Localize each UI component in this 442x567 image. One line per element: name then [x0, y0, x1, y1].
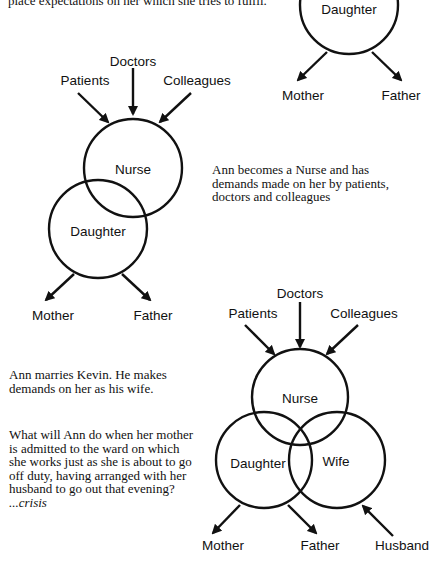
- diagram2-doctors-label: Doctors: [110, 54, 157, 69]
- arrow-to-father-1: [372, 52, 401, 80]
- diagram2-mother-label: Mother: [32, 308, 74, 323]
- caption-line: Ann marries Kevin. He makes: [9, 368, 167, 382]
- diagram2-nurse-label: Nurse: [115, 162, 151, 177]
- diagram3-daughter-label: Daughter: [230, 456, 286, 471]
- caption-line: doctors and colleagues: [212, 190, 389, 204]
- diagram3-question-caption: What will Ann do when her mother is admi…: [9, 428, 193, 509]
- crisis-text: ...crisis: [9, 496, 193, 510]
- arrow-from-patients-3: [245, 325, 274, 354]
- caption-line: What will Ann do when her mother: [9, 428, 193, 442]
- caption-line: is admitted to the ward on which: [9, 442, 193, 456]
- arrow-from-patients-2: [78, 93, 108, 122]
- diagram3-doctors-label: Doctors: [277, 286, 324, 301]
- arrow-from-colleagues-2: [160, 93, 191, 122]
- caption-line: off duty, having arranged with her: [9, 469, 193, 483]
- intro-line: place expectations on her which she trie…: [8, 0, 267, 8]
- diagram3-mother-label: Mother: [202, 538, 244, 553]
- diagram3-patients-label: Patients: [229, 306, 278, 321]
- diagram2-caption: Ann becomes a Nurse and has demands made…: [212, 163, 389, 204]
- diagram2-daughter-label: Daughter: [70, 224, 126, 239]
- caption-line: she works just as she is about to go: [9, 455, 193, 469]
- diagram3-nurse-label: Nurse: [282, 391, 318, 406]
- caption-line: demands made on her by patients,: [212, 177, 389, 191]
- arrow-from-husband-3: [363, 506, 393, 536]
- arrow-to-father-2: [122, 274, 150, 300]
- arrow-to-mother-1: [298, 52, 327, 80]
- diagram2-colleagues-label: Colleagues: [163, 73, 231, 88]
- diagram1-daughter-label: Daughter: [321, 2, 377, 17]
- intro-text: place expectations on her which she trie…: [8, 0, 267, 8]
- arrow-from-colleagues-3: [327, 325, 358, 354]
- diagram2-patients-label: Patients: [61, 73, 110, 88]
- arrow-to-mother-2: [46, 274, 74, 300]
- diagram3-husband-label: Husband: [375, 538, 429, 553]
- caption-line: demands on her as his wife.: [9, 382, 167, 396]
- arrow-to-father-3: [288, 505, 316, 533]
- caption-line: Ann becomes a Nurse and has: [212, 163, 389, 177]
- caption-line: husband to go out that evening?: [9, 482, 193, 496]
- arrow-to-mother-3: [213, 505, 240, 533]
- diagram1-mother-label: Mother: [282, 88, 324, 103]
- diagram3-wife-label: Wife: [323, 454, 350, 469]
- diagram1-father-label: Father: [381, 88, 420, 103]
- diagram3-colleagues-label: Colleagues: [330, 306, 398, 321]
- diagram3-father-label: Father: [300, 538, 339, 553]
- diagram2-father-label: Father: [133, 308, 172, 323]
- diagram3-marriage-caption: Ann marries Kevin. He makes demands on h…: [9, 368, 167, 395]
